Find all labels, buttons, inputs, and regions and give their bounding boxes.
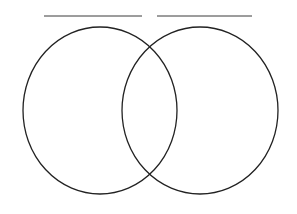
left-only-region[interactable] [26, 41, 118, 181]
venn-diagram-worksheet [0, 0, 297, 214]
venn-diagram-canvas [0, 0, 297, 214]
intersection-region[interactable] [126, 51, 174, 171]
right-only-region[interactable] [182, 41, 274, 181]
